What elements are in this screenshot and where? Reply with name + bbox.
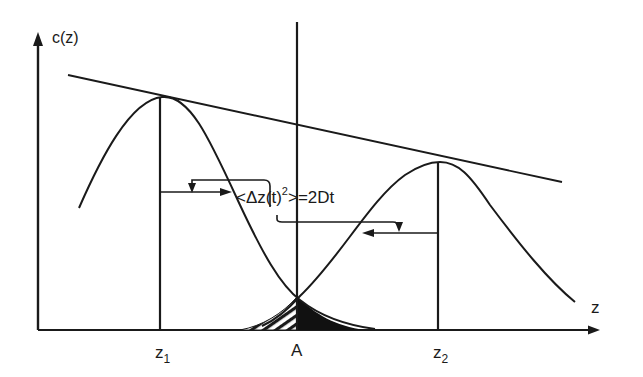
marker-z1-base: z <box>155 343 164 362</box>
equation-suffix: >=2Dt <box>288 188 335 207</box>
y-axis-label: c(z) <box>52 29 79 46</box>
marker-z2-base: z <box>433 343 442 362</box>
diffusion-equation: <Δz(t)2>=2Dt <box>236 185 335 207</box>
tangent-envelope-line <box>68 75 562 182</box>
y-axis <box>33 32 43 330</box>
x-axis-label: z <box>591 298 600 317</box>
marker-z2-sub: 2 <box>442 352 449 366</box>
marker-z1: z1 <box>155 343 171 366</box>
marker-z1-sub: 1 <box>164 352 171 366</box>
arrow-down-icon <box>395 222 403 232</box>
arrow-left-icon <box>362 229 374 237</box>
hatched-overlap-area <box>240 297 297 330</box>
arrow-right-icon <box>220 188 232 196</box>
right-gaussian-curve <box>262 162 575 326</box>
y-axis-arrow-icon <box>33 32 43 46</box>
marker-z2: z2 <box>433 343 449 366</box>
diffusion-diagram: c(z) z <Δz(t)2>=2Dt z <box>0 0 643 377</box>
right-spread-arrows <box>277 215 438 250</box>
marker-a: A <box>291 341 303 360</box>
equation-prefix: <Δz(t) <box>236 188 282 207</box>
x-axis-arrow-icon <box>588 326 600 335</box>
